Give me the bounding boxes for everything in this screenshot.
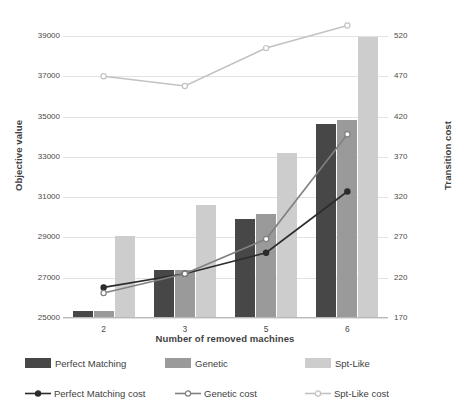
y-axis-right-tick-label: 220	[394, 273, 434, 282]
axis-baseline	[63, 317, 388, 318]
legend-row-bars: Perfect MatchingGeneticSpt-Like	[0, 352, 450, 374]
x-axis-ticks: 2356	[0, 320, 450, 340]
legend-label: Genetic cost	[204, 388, 257, 399]
data-point-marker	[345, 23, 350, 28]
legend-label: Perfect Matching cost	[54, 388, 145, 399]
y-axis-right-tick-label: 270	[394, 232, 434, 241]
y-axis-left-tick-label: 37000	[20, 71, 60, 80]
y-axis-right-tick-label: 420	[394, 112, 434, 121]
data-point-marker	[182, 271, 187, 276]
data-point-marker	[264, 250, 269, 255]
y-axis-left-tick-label: 29000	[20, 232, 60, 241]
gridline	[63, 318, 388, 319]
legend-swatch-icon	[25, 358, 51, 368]
y-axis-left-tick-label: 31000	[20, 192, 60, 201]
data-point-marker	[264, 236, 269, 241]
legend-line-marker-icon	[25, 388, 51, 399]
legend-swatch-icon	[165, 358, 191, 368]
legend-line-marker-icon	[305, 388, 331, 399]
x-axis-tick-label: 3	[155, 324, 215, 334]
data-point-marker	[182, 83, 187, 88]
y-axis-right-title: Transition cost	[442, 101, 453, 211]
legend-item-spt-like-cost[interactable]: Spt-Like cost	[305, 382, 389, 404]
x-axis-tick-label: 6	[317, 324, 377, 334]
data-point-marker	[101, 285, 106, 290]
legend-item-perfect-matching[interactable]: Perfect Matching	[25, 352, 126, 374]
legend-item-genetic[interactable]: Genetic	[165, 352, 228, 374]
data-point-marker	[345, 189, 350, 194]
legend: Perfect MatchingGeneticSpt-Like Perfect …	[0, 346, 450, 412]
y-axis-left-tick-label: 35000	[20, 112, 60, 121]
legend-item-genetic-cost[interactable]: Genetic cost	[175, 382, 257, 404]
legend-item-perfect-matching-cost[interactable]: Perfect Matching cost	[25, 382, 145, 404]
legend-label: Spt-Like	[335, 358, 370, 369]
legend-row-lines: Perfect Matching costGenetic costSpt-Lik…	[0, 382, 450, 404]
plot-area	[63, 36, 388, 318]
y-axis-right-tick-label: 470	[394, 71, 434, 80]
y-axis-right-tick-label: 370	[394, 152, 434, 161]
line-path	[104, 26, 348, 86]
y-axis-left-tick-label: 27000	[20, 273, 60, 282]
lines-layer	[63, 36, 388, 318]
y-axis-right-tick-label: 520	[394, 31, 434, 40]
data-point-marker	[101, 74, 106, 79]
legend-line-marker-icon	[175, 388, 201, 399]
data-point-marker	[101, 290, 106, 295]
y-axis-right-tick-label: 320	[394, 192, 434, 201]
y-axis-left-tick-label: 33000	[20, 152, 60, 161]
line-path	[104, 192, 348, 288]
data-point-marker	[264, 45, 269, 50]
x-axis-tick-label: 2	[74, 324, 134, 334]
x-axis-tick-label: 5	[236, 324, 296, 334]
line-path	[104, 134, 348, 293]
legend-label: Spt-Like cost	[334, 388, 389, 399]
legend-label: Genetic	[195, 358, 228, 369]
data-point-marker	[345, 132, 350, 137]
legend-swatch-icon	[305, 358, 331, 368]
y-axis-left-tick-label: 39000	[20, 31, 60, 40]
legend-label: Perfect Matching	[55, 358, 126, 369]
legend-item-spt-like[interactable]: Spt-Like	[305, 352, 370, 374]
